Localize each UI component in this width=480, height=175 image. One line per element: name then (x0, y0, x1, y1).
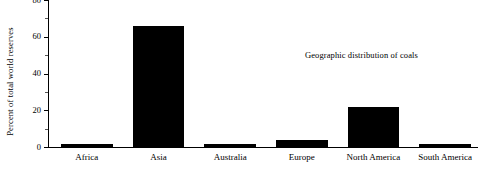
y-tick-minor (45, 18, 48, 19)
y-tick-major: 80 (44, 0, 49, 1)
y-axis-label: Percent of total world reserves (3, 8, 17, 155)
bar (61, 144, 113, 147)
chart-annotation: Geographic distribution of coals (305, 49, 418, 61)
category-label: North America (338, 151, 410, 163)
bar (276, 140, 328, 147)
category-label: Europe (266, 151, 338, 163)
y-tick-label: 80 (33, 0, 42, 6)
category-label: South America (409, 151, 480, 163)
category-label: Australia (194, 151, 266, 163)
category-label: Asia (123, 151, 195, 163)
category-label: Africa (51, 151, 123, 163)
y-tick-minor (45, 55, 48, 56)
bar (204, 144, 256, 147)
y-tick-major: 0 (44, 147, 49, 148)
y-tick-major: 20 (44, 110, 49, 111)
y-tick-label: 20 (33, 104, 42, 116)
y-tick-label: 60 (33, 30, 42, 42)
y-tick-major: 60 (44, 37, 49, 38)
y-tick-minor (45, 92, 48, 93)
bar-chart-figure: Percent of total world reserves 02040608… (0, 0, 480, 175)
y-tick-minor (45, 129, 48, 130)
y-tick-major: 40 (44, 74, 49, 75)
x-axis-line (48, 147, 478, 148)
bar (133, 26, 185, 147)
bar (348, 107, 400, 147)
bar (419, 144, 471, 147)
plot-area: 020406080 AfricaAsiaAustraliaEuropeNorth… (48, 0, 478, 147)
y-tick-label: 40 (33, 67, 42, 79)
y-tick-label: 0 (37, 141, 41, 153)
